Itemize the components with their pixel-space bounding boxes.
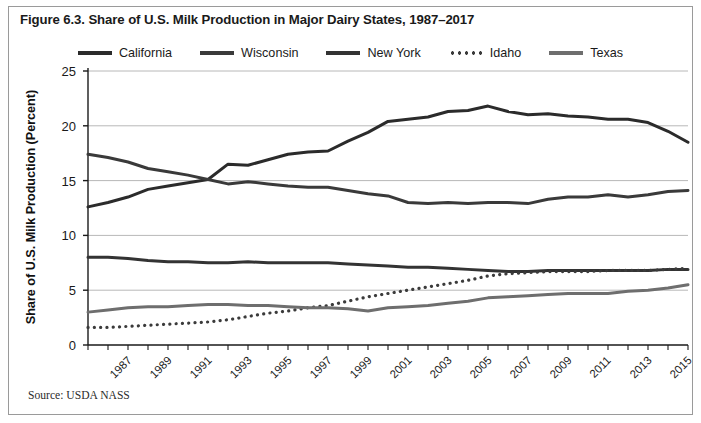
y-tick-label-15: 15 [50, 173, 76, 188]
chart-legend: CaliforniaWisconsinNew YorkIdahoTexas [0, 46, 701, 60]
legend-swatch-new-york-icon [326, 51, 360, 55]
page-title: Figure 6.3. Share of U.S. Milk Productio… [20, 12, 474, 27]
legend-label: California [119, 46, 172, 60]
legend-swatch-california-icon [78, 51, 112, 55]
legend-item-new-york[interactable]: New York [326, 46, 420, 60]
source-note: Source: USDA NASS [28, 389, 130, 402]
y-tick-label-20: 20 [50, 118, 76, 133]
legend-swatch-idaho-icon [449, 51, 483, 55]
y-tick-label-0: 0 [50, 338, 76, 353]
legend-label: New York [367, 46, 420, 60]
y-tick-label-5: 5 [50, 283, 76, 298]
y-axis-label: Share of U.S. Milk Production (Percent) [24, 82, 38, 332]
legend-item-wisconsin[interactable]: Wisconsin [200, 46, 298, 60]
legend-item-california[interactable]: California [78, 46, 172, 60]
y-tick-label-25: 25 [50, 64, 76, 79]
legend-label: Texas [590, 46, 623, 60]
y-axis-ticks: 0510152025 [46, 0, 76, 423]
figure-border [8, 6, 693, 415]
legend-label: Idaho [490, 46, 522, 60]
y-tick-label-10: 10 [50, 228, 76, 243]
legend-swatch-texas-icon [549, 51, 583, 55]
legend-swatch-wisconsin-icon [200, 51, 234, 55]
figure-container: Figure 6.3. Share of U.S. Milk Productio… [0, 0, 701, 423]
legend-item-idaho[interactable]: Idaho [449, 46, 522, 60]
legend-item-texas[interactable]: Texas [549, 46, 623, 60]
legend-label: Wisconsin [241, 46, 298, 60]
